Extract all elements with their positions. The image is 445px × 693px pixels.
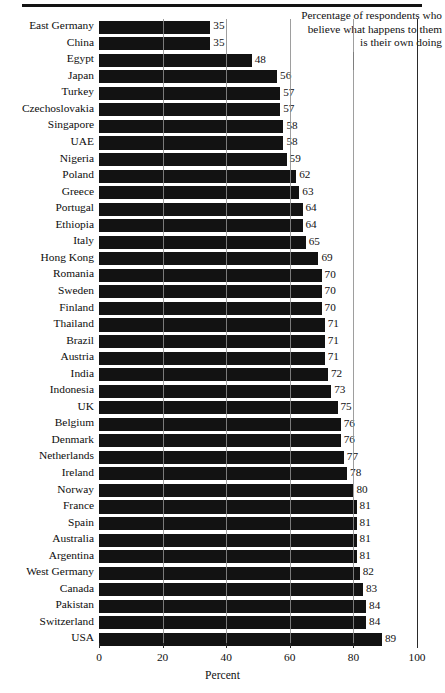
bar-value-label: 81 (360, 548, 371, 563)
bar (99, 633, 382, 646)
bar-value-label: 71 (328, 316, 339, 331)
category-label: Switzerland (40, 614, 94, 629)
bar-value-label: 35 (213, 35, 224, 50)
bar-row: France81 (99, 499, 417, 516)
bar (99, 467, 347, 480)
category-label: Ethiopia (55, 217, 94, 232)
category-label: India (71, 366, 94, 381)
bar-row: Greece63 (99, 184, 417, 201)
bar-value-label: 77 (347, 449, 358, 464)
bar-value-label: 63 (302, 184, 313, 199)
bar (99, 236, 306, 249)
bar (99, 352, 325, 365)
bar-row: Portugal64 (99, 201, 417, 218)
bar (99, 136, 283, 149)
bar (99, 203, 303, 216)
category-label: Ireland (62, 465, 94, 480)
bar (99, 87, 280, 100)
bar (99, 517, 357, 530)
bar-rows: East Germany35China35Egypt48Japan56Turke… (99, 19, 417, 648)
category-label: Brazil (66, 333, 94, 348)
bar-value-label: 83 (366, 581, 377, 596)
bar (99, 335, 325, 348)
x-tick-label: 40 (220, 650, 231, 664)
bar-value-label: 56 (280, 68, 291, 83)
bar (99, 37, 210, 50)
category-label: UAE (71, 134, 94, 149)
bar-value-label: 70 (325, 300, 336, 315)
bar-row: UAE58 (99, 135, 417, 152)
category-label: Belgium (55, 415, 94, 430)
bar (99, 21, 210, 34)
bar-value-label: 84 (369, 598, 380, 613)
bar-value-label: 81 (360, 531, 371, 546)
bar-value-label: 69 (321, 250, 332, 265)
bar-row: USA89 (99, 631, 417, 648)
bar-value-label: 81 (360, 498, 371, 513)
x-tick-80 (353, 643, 354, 648)
bar (99, 269, 322, 282)
category-label: Poland (62, 167, 94, 182)
bar (99, 219, 303, 232)
bar-value-label: 58 (286, 134, 297, 149)
x-tick-100 (417, 643, 418, 648)
category-label: Spain (68, 515, 94, 530)
category-label: Thailand (54, 316, 95, 331)
category-label: Nigeria (60, 151, 94, 166)
bar-row: India72 (99, 366, 417, 383)
bar (99, 153, 287, 166)
bar-value-label: 71 (328, 349, 339, 364)
bar-value-label: 70 (325, 267, 336, 282)
bar (99, 54, 252, 67)
bar-value-label: 81 (360, 515, 371, 530)
category-label: Czechoslovakia (22, 101, 94, 116)
x-tick-label: 60 (284, 650, 295, 664)
category-label: Singapore (48, 117, 94, 132)
bar-value-label: 59 (290, 151, 301, 166)
bar (99, 318, 325, 331)
bar-value-label: 48 (255, 52, 266, 67)
bar-value-label: 78 (350, 465, 361, 480)
bar-row: Indonesia73 (99, 383, 417, 400)
bar-row: Turkey57 (99, 85, 417, 102)
bar (99, 451, 344, 464)
bar-row: Austria71 (99, 350, 417, 367)
category-label: West Germany (26, 564, 94, 579)
category-label: France (63, 498, 94, 513)
bar-row: Brazil71 (99, 333, 417, 350)
category-label: UK (78, 399, 94, 414)
x-tick-label: 20 (157, 650, 168, 664)
category-label: Italy (73, 233, 94, 248)
bar (99, 103, 280, 116)
category-label: East Germany (29, 18, 94, 33)
bar-value-label: 75 (341, 399, 352, 414)
bar-value-label: 72 (331, 366, 342, 381)
bar-row: Denmark76 (99, 433, 417, 450)
category-label: Indonesia (50, 382, 94, 397)
bar (99, 120, 283, 133)
bar (99, 418, 341, 431)
bar-row: West Germany82 (99, 565, 417, 582)
x-tick-0 (99, 643, 100, 648)
bar-row: Switzerland84 (99, 615, 417, 632)
bar-row: Netherlands77 (99, 449, 417, 466)
bar (99, 500, 357, 513)
category-label: Norway (57, 482, 94, 497)
bar-row: Spain81 (99, 515, 417, 532)
bar-row: Hong Kong69 (99, 251, 417, 268)
bar (99, 302, 322, 315)
bar-value-label: 71 (328, 333, 339, 348)
category-label: Hong Kong (41, 250, 94, 265)
bar-chart: East Germany35China35Egypt48Japan56Turke… (0, 0, 445, 693)
bar-value-label: 70 (325, 283, 336, 298)
plot-area: East Germany35China35Egypt48Japan56Turke… (99, 19, 417, 648)
category-label: Austria (60, 349, 94, 364)
bar-value-label: 58 (286, 118, 297, 133)
bar-value-label: 84 (369, 614, 380, 629)
bar (99, 567, 360, 580)
category-label: Netherlands (39, 448, 94, 463)
bar-value-label: 57 (283, 85, 294, 100)
bar-row: Pakistan84 (99, 598, 417, 615)
bar-row: Belgium76 (99, 416, 417, 433)
bar-value-label: 82 (363, 564, 374, 579)
